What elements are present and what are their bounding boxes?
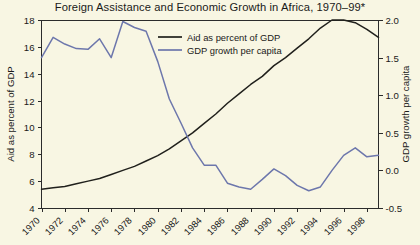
left-tick-label: 16 bbox=[24, 42, 35, 53]
x-tick-label: 1990 bbox=[252, 215, 274, 237]
left-tick-label: 12 bbox=[24, 96, 35, 107]
left-tick-label: 14 bbox=[24, 69, 35, 80]
x-tick-label: 1988 bbox=[229, 215, 251, 237]
right-tick-label: 1.0 bbox=[386, 90, 399, 101]
right-tick-label: 2.0 bbox=[386, 15, 399, 26]
left-tick-label: 10 bbox=[24, 122, 35, 133]
right-axis-ticks: -0.50.00.51.01.52.0 bbox=[379, 15, 403, 214]
x-tick-label: 1992 bbox=[275, 215, 297, 237]
x-axis-ticks: 1970197219741976197819801982198419861988… bbox=[20, 208, 367, 237]
x-tick-label: 1978 bbox=[112, 215, 134, 237]
right-tick-label: 0.5 bbox=[386, 128, 399, 139]
x-tick-label: 1976 bbox=[89, 215, 111, 237]
left-tick-label: 6 bbox=[29, 176, 34, 187]
chart-legend: Aid as percent of GDP GDP growth per cap… bbox=[158, 32, 282, 56]
legend-label-aid: Aid as percent of GDP bbox=[187, 32, 280, 43]
right-tick-label: 0.0 bbox=[386, 165, 399, 176]
right-tick-label: 1.5 bbox=[386, 53, 399, 64]
right-tick-label: -0.5 bbox=[386, 203, 403, 214]
x-tick-label: 1986 bbox=[205, 215, 227, 237]
x-tick-label: 1970 bbox=[20, 215, 42, 237]
right-axis-title: GDP growth per capita bbox=[400, 65, 411, 163]
left-tick-label: 8 bbox=[29, 149, 34, 160]
left-axis-title: Aid as percent of GDP bbox=[5, 66, 16, 161]
left-tick-label: 4 bbox=[29, 203, 35, 214]
x-tick-label: 1974 bbox=[66, 215, 88, 237]
x-tick-label: 1998 bbox=[345, 215, 367, 237]
x-tick-label: 1980 bbox=[136, 215, 158, 237]
x-tick-label: 1982 bbox=[159, 215, 181, 237]
x-tick-label: 1972 bbox=[43, 215, 65, 237]
legend-label-gdp: GDP growth per capita bbox=[187, 45, 282, 56]
left-tick-label: 18 bbox=[24, 15, 35, 26]
x-tick-label: 1996 bbox=[322, 215, 344, 237]
chart-canvas: 4681012141618 -0.50.00.51.01.52.0 197019… bbox=[0, 0, 420, 245]
x-tick-label: 1994 bbox=[298, 215, 320, 237]
left-axis-ticks: 4681012141618 bbox=[24, 15, 42, 214]
chart-screenshot: Foreign Assistance and Economic Growth i… bbox=[0, 0, 420, 245]
x-tick-label: 1984 bbox=[182, 215, 204, 237]
